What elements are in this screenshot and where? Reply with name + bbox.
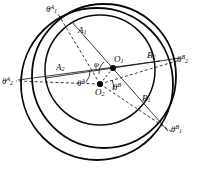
label-A2: A2 xyxy=(56,63,65,72)
label-phi: φ xyxy=(94,60,99,69)
label-theta-1-A: θA1 xyxy=(46,4,57,14)
label-B1: B1 xyxy=(142,94,151,103)
dashed-ray-O2-theta1B xyxy=(100,84,172,132)
angle-arc-phi xyxy=(99,62,104,74)
label-B2: B2 xyxy=(147,51,156,60)
label-A1: A1 xyxy=(78,26,87,35)
label-theta-1-B: θB1 xyxy=(171,124,182,134)
center-dot-O1 xyxy=(110,65,116,71)
label-theta-A: θA xyxy=(77,78,85,88)
dashed-ray-O2-theta2A xyxy=(16,81,100,84)
geometry-figure: θA1 A1 A2 θA2 φ O1 B2 θB2 θA θB O2 B1 θB… xyxy=(0,0,198,177)
label-theta-B: θB xyxy=(113,82,121,92)
angle-arc-theta-A xyxy=(86,72,90,82)
label-O2: O2 xyxy=(95,88,105,97)
label-theta-2-B: θB2 xyxy=(177,54,188,64)
label-O1: O1 xyxy=(114,55,124,64)
label-theta-2-A: θA2 xyxy=(2,76,13,86)
chord-A1-B1 xyxy=(72,22,168,131)
